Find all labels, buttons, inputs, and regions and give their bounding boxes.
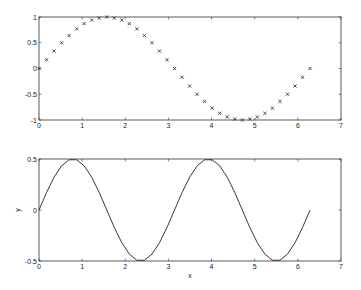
x-tick-label: 6 xyxy=(296,263,300,270)
y-tick-label: -1 xyxy=(31,117,37,124)
x-marker xyxy=(263,112,266,115)
x-marker xyxy=(173,67,176,70)
x-marker xyxy=(188,84,191,87)
y-tick-label: 0 xyxy=(33,207,37,214)
x-tick-label: 4 xyxy=(210,122,214,129)
x-marker xyxy=(271,107,274,110)
x-tick-label: 2 xyxy=(123,263,127,270)
figure: 01234567-1-0.500.51 01234567-0.500.5xy xyxy=(0,0,361,290)
x-marker xyxy=(52,49,55,52)
x-tick-label: 0 xyxy=(37,122,41,129)
axes-frame xyxy=(39,159,341,261)
x-tick-label: 5 xyxy=(253,122,257,129)
x-marker xyxy=(158,49,161,52)
x-marker xyxy=(75,27,78,30)
x-marker xyxy=(196,93,199,96)
x-marker xyxy=(286,93,289,96)
y-tick-label: -0.5 xyxy=(25,258,37,265)
x-marker xyxy=(150,41,153,44)
x-marker xyxy=(90,18,93,21)
top-subplot: 01234567-1-0.500.51 xyxy=(25,14,343,130)
x-marker xyxy=(203,100,206,103)
x-marker xyxy=(68,34,71,37)
x-marker xyxy=(226,115,229,118)
x-marker xyxy=(120,18,123,21)
x-tick-label: 2 xyxy=(123,122,127,129)
x-marker xyxy=(256,115,259,118)
x-tick-label: 3 xyxy=(166,263,170,270)
x-tick-label: 0 xyxy=(37,263,41,270)
x-marker xyxy=(308,67,311,70)
x-marker xyxy=(211,107,214,110)
x-marker xyxy=(135,27,138,30)
axes-frame xyxy=(39,17,341,120)
x-tick-label: 4 xyxy=(210,263,214,270)
x-tick-label: 3 xyxy=(166,122,170,129)
x-axis-label: x xyxy=(188,272,192,279)
x-marker xyxy=(301,76,304,79)
bottom-subplot: 01234567-0.500.5xy xyxy=(14,156,343,280)
x-tick-label: 7 xyxy=(339,263,343,270)
x-marker xyxy=(165,58,168,61)
x-marker xyxy=(143,34,146,37)
y-tick-label: 0 xyxy=(33,65,37,72)
y-tick-label: 1 xyxy=(33,14,37,21)
sine-line xyxy=(39,160,310,260)
x-marker xyxy=(83,22,86,25)
x-marker xyxy=(218,112,221,115)
x-tick-label: 1 xyxy=(80,263,84,270)
x-marker xyxy=(60,41,63,44)
y-tick-label: 0.5 xyxy=(27,156,37,163)
x-marker xyxy=(278,100,281,103)
y-tick-label: -0.5 xyxy=(25,91,37,98)
x-marker xyxy=(45,58,48,61)
x-marker xyxy=(128,22,131,25)
y-axis-label: y xyxy=(14,208,22,212)
x-marker xyxy=(293,84,296,87)
y-tick-label: 0.5 xyxy=(27,39,37,46)
x-marker xyxy=(180,76,183,79)
x-tick-label: 5 xyxy=(253,263,257,270)
x-tick-label: 7 xyxy=(339,122,343,129)
x-tick-label: 1 xyxy=(80,122,84,129)
x-tick-label: 6 xyxy=(296,122,300,129)
